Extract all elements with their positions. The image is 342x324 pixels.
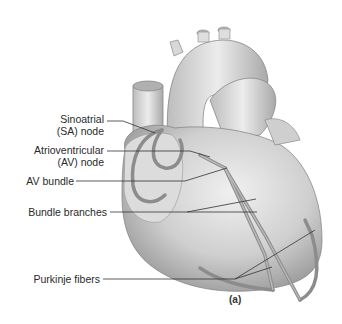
label-purkinje-text: Purkinje fibers bbox=[33, 273, 100, 285]
figure-caption: (a) bbox=[229, 294, 241, 305]
label-purkinje-fibers: Purkinje fibers bbox=[33, 273, 100, 285]
label-sa-line2: (SA) node bbox=[57, 125, 104, 137]
label-av-bundle: AV bundle bbox=[26, 175, 74, 187]
label-sa-node: Sinoatrial (SA) node bbox=[57, 113, 104, 137]
label-sa-line1: Sinoatrial bbox=[57, 113, 104, 125]
label-bundle-branches-text: Bundle branches bbox=[28, 206, 107, 218]
label-av-bundle-text: AV bundle bbox=[26, 175, 74, 187]
label-av-line2: (AV) node bbox=[34, 156, 104, 168]
label-av-node: Atrioventricular (AV) node bbox=[34, 144, 104, 168]
label-av-line1: Atrioventricular bbox=[34, 144, 104, 156]
label-bundle-branches: Bundle branches bbox=[28, 206, 107, 218]
